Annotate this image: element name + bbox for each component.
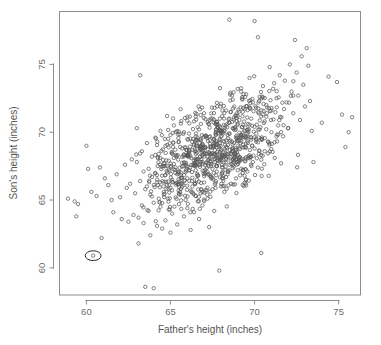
x-tick-label: 70 bbox=[249, 306, 260, 317]
plot-canvas: 60657075 60657075 Father's height (inche… bbox=[0, 0, 381, 345]
x-tick-label: 75 bbox=[333, 306, 344, 317]
x-tick-label: 65 bbox=[165, 306, 176, 317]
y-axis-title: Son's height (inches) bbox=[8, 106, 19, 199]
y-tick-label: 60 bbox=[37, 263, 48, 274]
x-tick-label: 60 bbox=[81, 306, 92, 317]
y-tick-label: 65 bbox=[37, 195, 48, 206]
x-axis-title: Father's height (inches) bbox=[158, 324, 262, 335]
y-tick-label: 70 bbox=[37, 127, 48, 138]
y-tick-label: 75 bbox=[37, 59, 48, 70]
scatter-plot-figure: 60657075 60657075 Father's height (inche… bbox=[0, 0, 381, 345]
